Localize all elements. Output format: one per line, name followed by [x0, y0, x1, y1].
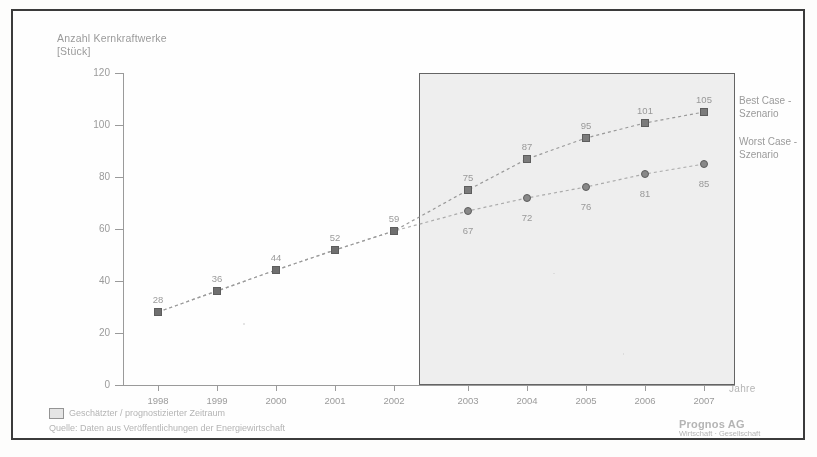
legend-item-worst-case[interactable]: Worst Case - Szenario [739, 136, 817, 161]
forecast-swatch-icon [49, 408, 64, 419]
scan-speck [243, 323, 245, 325]
data-point-best-1999 [213, 287, 221, 295]
chart-page: Anzahl Kernkraftwerke [Stück] Jahre 120 … [0, 0, 817, 457]
x-tick [335, 385, 336, 391]
x-tick-label: 2001 [309, 395, 361, 406]
chart-frame: Anzahl Kernkraftwerke [Stück] Jahre 120 … [11, 9, 805, 440]
y-tick: 100 [115, 125, 123, 126]
data-point-best-2000 [272, 266, 280, 274]
x-tick [468, 385, 469, 391]
x-tick-label: 2005 [560, 395, 612, 406]
data-label-best-2005: 95 [569, 120, 603, 131]
plot-area: 120 100 80 60 40 20 0 1998 1999 2000 200… [123, 73, 735, 385]
data-label-best-2004: 87 [510, 141, 544, 152]
footer-source-note: Quelle: Daten aus Veröffentlichungen der… [49, 422, 519, 435]
x-tick [586, 385, 587, 391]
x-tick-label: 2000 [250, 395, 302, 406]
data-label-worst-2004: 72 [510, 212, 544, 223]
data-label-worst-2003: 67 [451, 225, 485, 236]
legend-label-worst-case-line1: Worst Case - [739, 136, 817, 149]
data-point-worst-2004 [523, 194, 531, 202]
x-tick [276, 385, 277, 391]
data-point-best-2005 [582, 134, 590, 142]
data-label-best-2003: 75 [451, 172, 485, 183]
scan-speck [553, 273, 555, 274]
data-label-best-2000: 44 [259, 252, 293, 263]
legend: Best Case - Szenario Worst Case - Szenar… [739, 95, 817, 177]
scan-speck [623, 353, 624, 355]
y-tick: 20 [115, 333, 123, 334]
x-tick-label: 2002 [368, 395, 420, 406]
data-label-best-1998: 28 [141, 294, 175, 305]
footer-swatch-row: Geschätzter / prognostizierter Zeitraum [49, 407, 519, 420]
series-line-best-case [158, 112, 704, 312]
footer: Geschätzter / prognostizierter Zeitraum … [49, 407, 519, 435]
x-tick-label: 2004 [501, 395, 553, 406]
data-point-best-2003 [464, 186, 472, 194]
data-label-worst-2006: 81 [628, 188, 662, 199]
legend-label-best-case-line2: Szenario [739, 108, 817, 121]
data-point-best-2001 [331, 246, 339, 254]
x-tick [704, 385, 705, 391]
y-tick: 80 [115, 177, 123, 178]
data-point-best-2002 [390, 227, 398, 235]
data-label-best-1999: 36 [200, 273, 234, 284]
company-watermark: Prognos AG Wirtschaft · Gesellschaft [679, 419, 811, 439]
x-axis-line [123, 385, 735, 386]
y-tick-label: 120 [93, 67, 110, 78]
y-tick: 60 [115, 229, 123, 230]
x-tick-label: 2003 [442, 395, 494, 406]
y-axis-title-line1: Anzahl Kernkraftwerke [57, 32, 167, 44]
y-tick: 0 [115, 385, 123, 386]
data-point-worst-2005 [582, 183, 590, 191]
data-label-best-2002: 59 [377, 213, 411, 224]
data-point-best-1998 [154, 308, 162, 316]
y-tick-label: 60 [99, 223, 110, 234]
x-tick-label: 1999 [191, 395, 243, 406]
data-point-worst-2007 [700, 160, 708, 168]
company-tagline: Wirtschaft · Gesellschaft [679, 430, 811, 439]
data-label-best-2006: 101 [628, 105, 662, 116]
series-line-worst-case [158, 164, 704, 312]
legend-label-worst-case-line2: Szenario [739, 149, 817, 162]
data-label-best-2007: 105 [687, 94, 721, 105]
data-label-worst-2005: 76 [569, 201, 603, 212]
x-tick-label: 1998 [132, 395, 184, 406]
x-tick-label: 2007 [678, 395, 730, 406]
x-tick [394, 385, 395, 391]
data-point-best-2007 [700, 108, 708, 116]
data-label-worst-2007: 85 [687, 178, 721, 189]
x-tick [527, 385, 528, 391]
data-point-best-2006 [641, 119, 649, 127]
x-tick [645, 385, 646, 391]
legend-label-best-case-line1: Best Case - [739, 95, 817, 108]
x-tick [217, 385, 218, 391]
y-axis-title-line2: [Stück] [57, 45, 317, 58]
y-tick-label: 100 [93, 119, 110, 130]
y-tick: 40 [115, 281, 123, 282]
footer-swatch-label: Geschätzter / prognostizierter Zeitraum [69, 407, 225, 420]
data-point-worst-2003 [464, 207, 472, 215]
data-point-best-2004 [523, 155, 531, 163]
data-label-best-2001: 52 [318, 232, 352, 243]
y-axis-title: Anzahl Kernkraftwerke [Stück] [57, 32, 317, 58]
data-point-worst-2006 [641, 170, 649, 178]
y-tick-label: 40 [99, 275, 110, 286]
y-tick-label: 80 [99, 171, 110, 182]
y-tick-label: 20 [99, 327, 110, 338]
x-tick-label: 2006 [619, 395, 671, 406]
legend-item-best-case[interactable]: Best Case - Szenario [739, 95, 817, 120]
y-tick: 120 [115, 73, 123, 74]
x-tick [158, 385, 159, 391]
y-tick-label: 0 [104, 379, 110, 390]
